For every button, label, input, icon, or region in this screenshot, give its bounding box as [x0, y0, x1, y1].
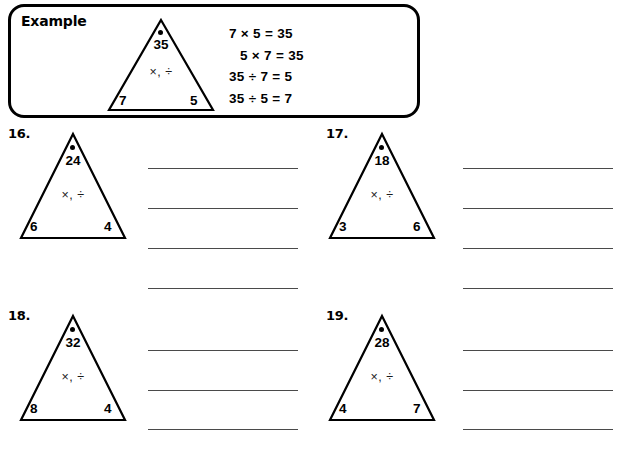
problem-18-fact-triangle: 32 ×, ÷ 8 4 [18, 313, 128, 423]
apex-dot-icon [158, 30, 163, 35]
equation-item: 7 × 5 = 35 [229, 23, 359, 45]
equation-item: 35 ÷ 7 = 5 [229, 66, 359, 88]
apex-dot-icon [379, 145, 384, 150]
problem-16-fact-triangle: 24 ×, ÷ 6 4 [18, 131, 128, 241]
triangle-operators-label: ×, ÷ [43, 188, 103, 202]
answer-line[interactable] [148, 350, 298, 351]
answer-line[interactable] [463, 288, 613, 289]
answer-line[interactable] [148, 208, 298, 209]
answer-line[interactable] [148, 288, 298, 289]
triangle-product-value: 32 [53, 335, 93, 350]
triangle-factor-left-value: 8 [30, 401, 38, 416]
triangle-factor-right-value: 5 [190, 93, 198, 108]
triangle-factor-left-value: 7 [119, 93, 127, 108]
triangle-factor-right-value: 4 [104, 401, 112, 416]
triangle-product-value: 35 [141, 37, 181, 52]
triangle-factor-right-value: 4 [104, 219, 112, 234]
problem-19-fact-triangle: 28 ×, ÷ 4 7 [327, 313, 437, 423]
example-box: Example 35 ×, ÷ 7 5 7 × 5 = 35 5 × 7 = 3… [8, 4, 420, 118]
triangle-operators-label: ×, ÷ [352, 188, 412, 202]
triangle-operators-label: ×, ÷ [352, 370, 412, 384]
answer-line[interactable] [463, 208, 613, 209]
problem-17-fact-triangle: 18 ×, ÷ 3 6 [327, 131, 437, 241]
answer-line[interactable] [148, 168, 298, 169]
triangle-product-value: 28 [362, 335, 402, 350]
example-fact-triangle: 35 ×, ÷ 7 5 [106, 17, 216, 113]
triangle-factor-right-value: 6 [413, 219, 421, 234]
example-equations-list: 7 × 5 = 35 5 × 7 = 35 35 ÷ 7 = 5 35 ÷ 5 … [229, 23, 359, 109]
answer-line[interactable] [148, 429, 298, 430]
example-label: Example [21, 13, 87, 29]
triangle-product-value: 18 [362, 153, 402, 168]
triangle-factor-left-value: 3 [339, 219, 347, 234]
triangle-factor-right-value: 7 [413, 401, 421, 416]
equation-item: 5 × 7 = 35 [229, 45, 359, 67]
triangle-product-value: 24 [53, 153, 93, 168]
apex-dot-icon [379, 327, 384, 332]
apex-dot-icon [70, 327, 75, 332]
triangle-operators-label: ×, ÷ [131, 65, 191, 79]
answer-line[interactable] [463, 168, 613, 169]
answer-line[interactable] [148, 390, 298, 391]
answer-line[interactable] [148, 248, 298, 249]
answer-line[interactable] [463, 350, 613, 351]
answer-line[interactable] [463, 429, 613, 430]
triangle-factor-left-value: 6 [30, 219, 38, 234]
apex-dot-icon [70, 145, 75, 150]
answer-line[interactable] [463, 390, 613, 391]
triangle-operators-label: ×, ÷ [43, 370, 103, 384]
equation-item: 35 ÷ 5 = 7 [229, 88, 359, 110]
triangle-factor-left-value: 4 [339, 401, 347, 416]
answer-line[interactable] [463, 248, 613, 249]
